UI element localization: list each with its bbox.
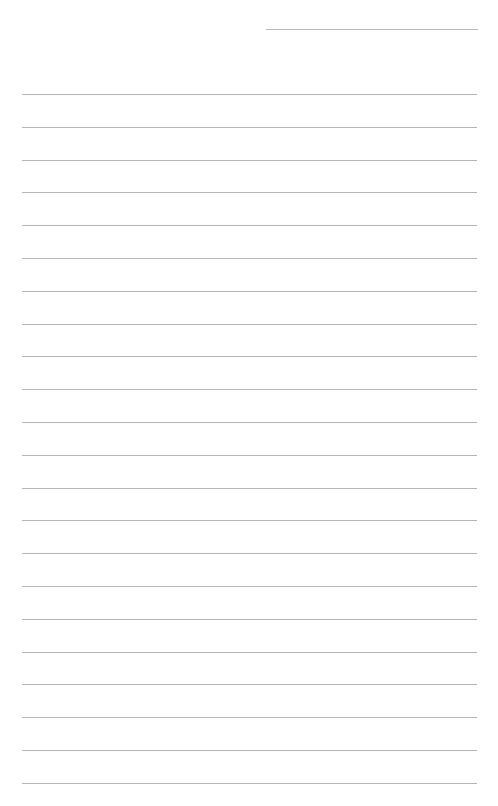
- ruled-line: [22, 553, 477, 554]
- ruled-line: [22, 422, 477, 423]
- notebook-page: [0, 0, 498, 806]
- ruled-line: [22, 520, 477, 521]
- ruled-line: [22, 488, 477, 489]
- ruled-line: [22, 258, 477, 259]
- ruled-line: [22, 455, 477, 456]
- header-name-date-line: [266, 29, 478, 30]
- ruled-line: [22, 160, 477, 161]
- ruled-line: [22, 225, 477, 226]
- ruled-line: [22, 192, 477, 193]
- ruled-line: [22, 324, 477, 325]
- ruled-line: [22, 94, 477, 95]
- ruled-line: [22, 684, 477, 685]
- ruled-line: [22, 586, 477, 587]
- ruled-line: [22, 652, 477, 653]
- ruled-line: [22, 356, 477, 357]
- ruled-line: [22, 717, 477, 718]
- ruled-line: [22, 291, 477, 292]
- ruled-line: [22, 389, 477, 390]
- ruled-line: [22, 127, 477, 128]
- ruled-line: [22, 619, 477, 620]
- ruled-line: [22, 750, 477, 751]
- ruled-line: [22, 783, 477, 784]
